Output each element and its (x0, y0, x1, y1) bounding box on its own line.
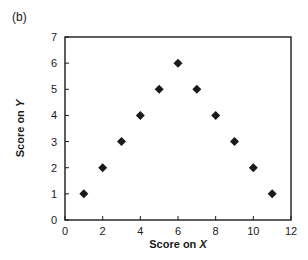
data-point-diamond (268, 189, 277, 198)
x-tick-label: 12 (285, 225, 297, 237)
y-tick-label: 4 (51, 109, 57, 121)
y-tick-label: 5 (51, 83, 57, 95)
x-tick-label: 0 (62, 225, 68, 237)
y-tick-label: 2 (51, 162, 57, 174)
data-point-diamond (117, 137, 126, 146)
x-tick-label: 6 (175, 225, 181, 237)
x-tick-label: 10 (247, 225, 259, 237)
data-point-diamond (155, 85, 164, 94)
data-point-diamond (249, 163, 258, 172)
y-tick-label: 1 (51, 188, 57, 200)
x-tick-label: 8 (213, 225, 219, 237)
y-tick-label: 6 (51, 57, 57, 69)
x-tick-label: 2 (100, 225, 106, 237)
data-point-diamond (174, 59, 183, 68)
y-tick-label: 0 (51, 214, 57, 226)
data-point-diamond (211, 111, 220, 120)
data-point-diamond (136, 111, 145, 120)
y-axis-label: Score on Y (14, 98, 26, 157)
scatter-chart: 02468101201234567Score on XScore on Y (0, 0, 308, 260)
data-point-diamond (79, 189, 88, 198)
y-tick-label: 3 (51, 136, 57, 148)
data-point-diamond (230, 137, 239, 146)
y-tick-label: 7 (51, 31, 57, 43)
x-tick-label: 4 (137, 225, 143, 237)
x-axis-label: Score on X (149, 238, 207, 250)
data-point-diamond (192, 85, 201, 94)
data-point-diamond (98, 163, 107, 172)
